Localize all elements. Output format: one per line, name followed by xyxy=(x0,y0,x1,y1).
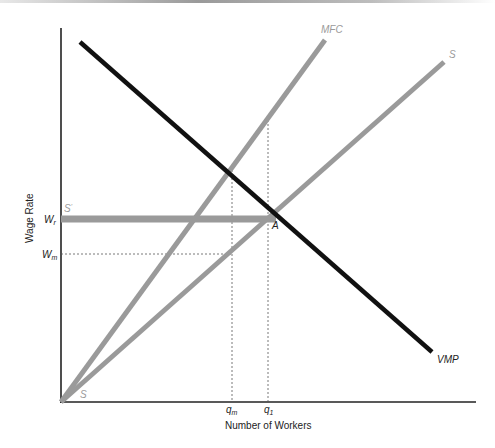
s-label-top: S xyxy=(449,49,456,60)
y-axis-title: Wage Rate xyxy=(24,193,35,243)
point-a-label: A xyxy=(271,220,279,231)
wm-label: Wm xyxy=(42,249,57,261)
q1-label: q1 xyxy=(264,404,274,416)
vmp-label: VMP xyxy=(437,354,459,365)
supply-curve xyxy=(61,62,444,402)
mfc-label: MFC xyxy=(321,24,343,35)
s-label-origin: S xyxy=(80,389,87,400)
s-prime-label: S' xyxy=(64,203,73,214)
qm-label: qm xyxy=(226,404,238,416)
wr-label: Wr xyxy=(44,214,56,226)
x-axis-title: Number of Workers xyxy=(225,420,312,431)
chart: MFC S VMP A S S' Wr Wm qm q1 Number of W… xyxy=(0,0,495,448)
